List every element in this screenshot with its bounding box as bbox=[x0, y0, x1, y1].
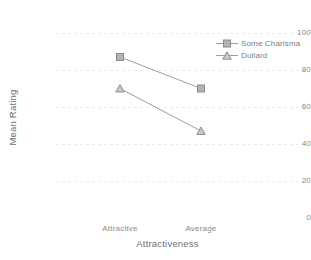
ytick-label-20: 20 bbox=[277, 176, 311, 185]
ytick-label-40: 40 bbox=[277, 139, 311, 148]
series-some-charisma-point-average bbox=[198, 85, 205, 92]
legend-entry-some-charisma[interactable]: Some Charisma bbox=[216, 38, 310, 49]
legend-label-dullard: Dullard bbox=[241, 50, 267, 61]
interaction-line-chart: 100 80 60 40 20 0 Attractive Average Att… bbox=[0, 0, 311, 260]
series-some-charisma-point-attractive bbox=[117, 54, 124, 61]
series-dullard-point-average bbox=[197, 127, 205, 134]
ytick-label-60: 60 bbox=[277, 102, 311, 111]
legend-entry-dullard[interactable]: Dullard bbox=[216, 50, 310, 61]
ytick-label-0: 0 bbox=[277, 213, 311, 222]
xtick-label-attractive: Attractive bbox=[102, 224, 137, 233]
xtick-label-average: Average bbox=[185, 224, 216, 233]
series-dullard bbox=[116, 85, 205, 135]
legend: Some Charisma Dullard bbox=[216, 38, 310, 62]
ytick-label-80: 80 bbox=[277, 65, 311, 74]
series-dullard-segment bbox=[120, 89, 201, 132]
ytick-label-100: 100 bbox=[277, 28, 311, 37]
triangle-marker-icon bbox=[216, 50, 238, 61]
series-dullard-point-attractive bbox=[116, 85, 124, 92]
series-some-charisma-segment bbox=[120, 57, 201, 89]
series-some-charisma bbox=[117, 54, 205, 93]
x-axis-title: Attractiveness bbox=[0, 238, 311, 249]
y-axis-title: Mean Rating bbox=[7, 73, 18, 163]
square-marker-icon bbox=[216, 38, 238, 49]
legend-label-some-charisma: Some Charisma bbox=[241, 38, 300, 49]
